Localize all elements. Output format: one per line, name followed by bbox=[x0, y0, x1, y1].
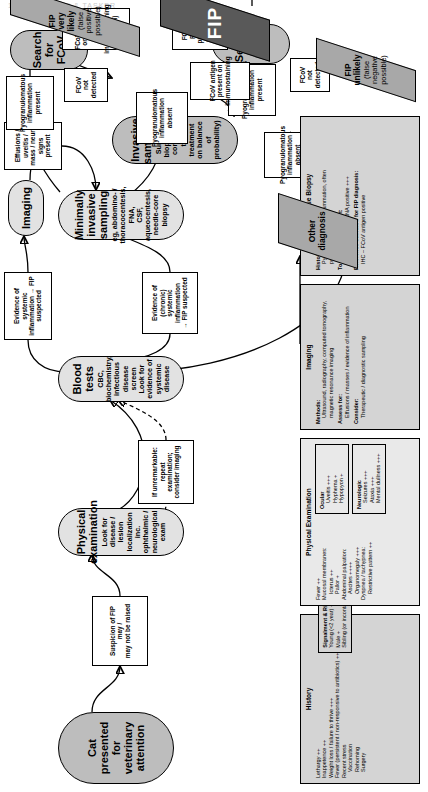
key-title: Physical Examination bbox=[305, 444, 313, 600]
key-box-history: History Lethargy ++ Inappetence ++ Weigh… bbox=[300, 614, 420, 784]
flow-node-blood-tests[interactable]: Blood tests CBC, biochemistry, infectiou… bbox=[58, 356, 184, 402]
flow-node-subtitle: Look for disease / lesion localization i… bbox=[101, 511, 167, 554]
outcome-fip[interactable]: FIP bbox=[160, 2, 270, 44]
flow-node-imaging[interactable]: Imaging bbox=[8, 180, 44, 236]
flow-node-title: Cat presented for veterinary attention bbox=[86, 717, 146, 779]
flow-node-title: Minimally invasive sampling bbox=[73, 190, 109, 240]
key-title: History bbox=[305, 620, 313, 778]
connector-label-chronic-systemic-inflammation: Evidence of (chronic) systemic inflammat… bbox=[142, 272, 198, 334]
key-subbox-neurologic: Neurologic Seizures +++ Ataxia +++ Menta… bbox=[352, 444, 386, 514]
flow-node-subtitle: eg, abdomino- / thoracocentesis, FNA, CS… bbox=[111, 186, 169, 243]
rotated-figure-container: Cat presented for veterinary attention P… bbox=[0, 0, 428, 792]
connector-label-pyogranulomatous-present-1: Pyogranulomatous inflammation present bbox=[6, 76, 54, 130]
key-box-imaging: Imaging Methods: Ultrasound, radiography… bbox=[300, 284, 420, 430]
key-title: Imaging bbox=[305, 290, 313, 424]
connector-label-systemic-inflammation: Evidence of systemic inflammation → FIP … bbox=[4, 272, 52, 340]
outcome-fip-very-likely[interactable]: FIP very likely (false positive possible… bbox=[10, 6, 140, 36]
connector-label-if-unremarkable: If unremarkable: repeat examination; con… bbox=[138, 440, 194, 504]
flow-node-title: Imaging bbox=[20, 187, 32, 229]
flowchart-figure: Cat presented for veterinary attention P… bbox=[0, 0, 428, 792]
connector-label-suspicion-of-fip: Suspicion of FIP may / may not be raised bbox=[92, 596, 148, 666]
outcome-fip-unlikely[interactable]: FIP unlikely (false negative possible) bbox=[316, 54, 416, 86]
connector-label-fcov-antigen-immunostaining: FCoV antigen present on immunostaining bbox=[190, 62, 250, 100]
flow-node-physical-examination[interactable]: Physical examination Look for disease / … bbox=[58, 508, 184, 556]
flow-node-title: Physical examination bbox=[75, 500, 99, 564]
connector-label-pyogranulomatous-absent-1: Pyogranulomatous inflammation absent bbox=[136, 92, 188, 144]
key-subbox-ocular: Ocular Uveitis +++ Hyphema + Hypopyon + bbox=[315, 444, 349, 514]
flow-node-title: Blood tests bbox=[71, 360, 95, 398]
key-box-physical-examination: Physical Examination Fever ++ Mucosal me… bbox=[300, 438, 420, 606]
flow-node-start[interactable]: Cat presented for veterinary attention bbox=[58, 712, 174, 784]
flow-node-subtitle: CBC, biochemistry, infectious disease sc… bbox=[97, 356, 172, 402]
figure-page: 170BARRS & TASKER bbox=[0, 0, 428, 792]
flow-node-minimally-invasive-sampling[interactable]: Minimally invasive sampling eg, abdomino… bbox=[58, 190, 184, 240]
connector-label-fcov-not-detected-1: FCoV not detected bbox=[64, 68, 108, 102]
